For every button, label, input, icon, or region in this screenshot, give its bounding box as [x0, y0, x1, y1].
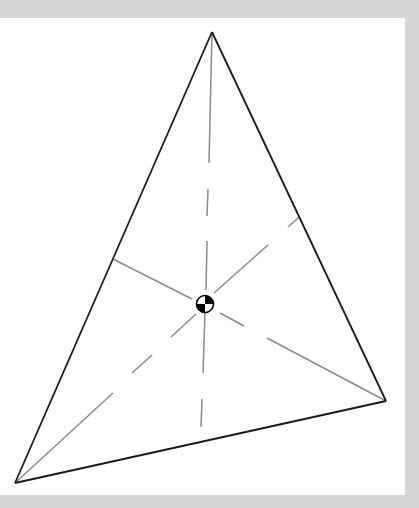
center-of-mass-icon	[197, 296, 214, 313]
median-from-right-vertex	[113, 259, 386, 401]
edge-right-to-top	[212, 32, 386, 401]
median-from-top-vertex	[201, 32, 212, 427]
median-from-bottom-left-vertex	[15, 217, 299, 483]
triangle-diagram	[0, 0, 419, 508]
edge-top-to-bottom-left	[15, 32, 212, 483]
edge-bottom-left-to-right	[15, 401, 386, 483]
